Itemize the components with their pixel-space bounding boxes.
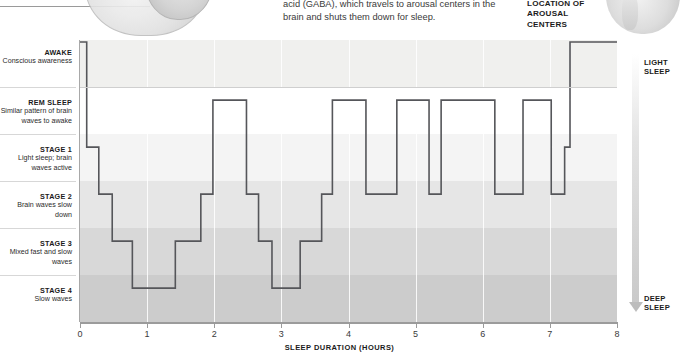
y-axis-line [79, 40, 80, 322]
x-axis-tick [416, 322, 417, 328]
stage-description: Conscious awareness [0, 57, 72, 66]
x-axis-tick-label: 4 [339, 329, 359, 339]
deep-sleep-label: DEEP SLEEP [644, 294, 684, 313]
x-axis-tick [147, 322, 148, 328]
x-axis-tick-label: 7 [540, 329, 560, 339]
stage-description: Mixed fast and slow waves [0, 248, 72, 267]
x-axis-title: SLEEP DURATION (HOURS) [0, 343, 679, 352]
x-axis-tick-label: 3 [271, 329, 291, 339]
x-axis-tick [80, 322, 81, 328]
gaba-caption-text: acid (GABA), which travels to arousal ce… [283, 0, 508, 25]
stage-label-stage-2: STAGE 2Brain waves slow down [0, 181, 76, 228]
sleep-depth-arrow-icon [632, 54, 639, 304]
stage-title: REM SLEEP [0, 98, 72, 107]
stage-description: Slow waves [0, 295, 72, 304]
stage-description: Similar pattern of brain waves to awake [0, 107, 72, 126]
stage-description: Light sleep; brain waves active [0, 154, 72, 173]
stage-description: Brain waves slow down [0, 201, 72, 220]
brainstem-illustration-icon [622, 0, 638, 30]
stage-title: STAGE 3 [0, 239, 72, 248]
gridline [617, 40, 618, 322]
stage-title: STAGE 1 [0, 145, 72, 154]
light-sleep-label: LIGHT SLEEP [644, 58, 684, 77]
stage-label-rem-sleep: REM SLEEPSimilar pattern of brain waves … [0, 87, 76, 134]
brain-illustration-right-icon [606, 0, 680, 34]
x-axis-tick [483, 322, 484, 328]
arousal-centers-label: LOCATION OF AROUSAL CENTERS [527, 0, 599, 30]
x-axis-tick [617, 322, 618, 328]
hypnogram-chart: AWAKEConscious awarenessREM SLEEPSimilar… [0, 36, 679, 353]
header-illustration-strip: acid (GABA), which travels to arousal ce… [0, 0, 679, 36]
x-axis-tick [550, 322, 551, 328]
stage-label-awake: AWAKEConscious awareness [0, 40, 76, 87]
x-axis-tick-label: 6 [473, 329, 493, 339]
stage-label-stage-1: STAGE 1Light sleep; brain waves active [0, 134, 76, 181]
x-axis-tick-label: 5 [406, 329, 426, 339]
sleep-depth-arrowhead-icon [629, 302, 643, 312]
x-axis-tick [214, 322, 215, 328]
stage-label-column: AWAKEConscious awarenessREM SLEEPSimilar… [0, 40, 78, 322]
x-axis-tick-label: 1 [137, 329, 157, 339]
x-axis-tick [281, 322, 282, 328]
x-axis-tick-label: 2 [204, 329, 224, 339]
hypnogram-line [80, 40, 617, 322]
stage-title: AWAKE [0, 48, 72, 57]
x-axis-tick [349, 322, 350, 328]
stage-label-stage-4: STAGE 4Slow waves [0, 275, 76, 322]
awake-band-separator [80, 87, 617, 88]
stage-title: STAGE 2 [0, 192, 72, 201]
plot-area [80, 40, 617, 322]
stage-title: STAGE 4 [0, 286, 72, 295]
x-axis-tick-label: 0 [70, 329, 90, 339]
stage-label-stage-3: STAGE 3Mixed fast and slow waves [0, 228, 76, 275]
x-axis-tick-label: 8 [607, 329, 627, 339]
